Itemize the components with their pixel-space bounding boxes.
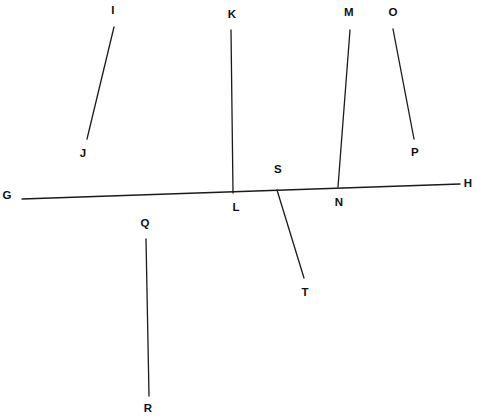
point-label-T: T: [301, 287, 308, 299]
point-label-Q: Q: [140, 218, 149, 230]
segment-ST: [277, 190, 304, 278]
segment-MN: [338, 30, 350, 187]
point-label-O: O: [388, 7, 397, 19]
point-label-I: I: [111, 5, 114, 17]
point-label-P: P: [411, 147, 419, 159]
point-label-J: J: [80, 148, 87, 160]
segment-QR: [146, 239, 149, 396]
point-label-N: N: [335, 197, 344, 209]
point-label-K: K: [228, 9, 237, 21]
geometry-diagram: G H I J K L M N O P Q R S T: [0, 0, 478, 418]
point-label-G: G: [2, 190, 11, 202]
point-label-M: M: [344, 7, 354, 19]
point-label-H: H: [464, 178, 473, 190]
segment-GH: [22, 184, 460, 199]
segment-OP: [393, 29, 414, 139]
point-label-L: L: [232, 202, 239, 214]
point-label-S: S: [274, 164, 282, 176]
segment-IJ: [87, 27, 114, 139]
segment-KL: [231, 30, 233, 193]
point-label-R: R: [144, 403, 153, 415]
